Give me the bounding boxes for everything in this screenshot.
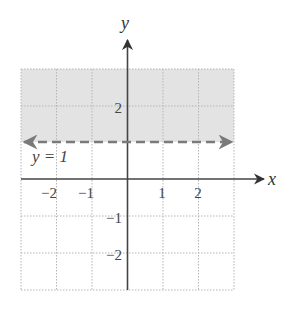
inequality-graph: x y y = 1 −2 −1 1 2 2 −1 −2 bbox=[0, 0, 284, 311]
x-tick-label: 2 bbox=[194, 185, 202, 201]
y-tick-label: −1 bbox=[106, 210, 122, 226]
x-tick-label: 1 bbox=[158, 185, 166, 201]
y-axis-label: y bbox=[119, 13, 129, 33]
y-tick-label: −2 bbox=[106, 247, 122, 263]
x-axis-label: x bbox=[267, 169, 276, 189]
x-tick-label: −1 bbox=[78, 185, 94, 201]
y-tick-label: 2 bbox=[115, 100, 123, 116]
boundary-label: y = 1 bbox=[30, 147, 68, 166]
x-tick-label: −2 bbox=[41, 185, 57, 201]
